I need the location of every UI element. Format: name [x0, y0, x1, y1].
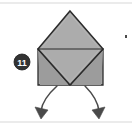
left-arrow-head: [35, 107, 48, 119]
origami-diagram-canvas: 11: [0, 0, 132, 130]
step-badge-label: 11: [17, 58, 27, 68]
scan-speck: [125, 35, 127, 38]
step-number-badge: 11: [14, 54, 30, 70]
right-arrow-head: [92, 107, 105, 119]
left-arrow-shaft: [41, 86, 57, 111]
right-arrow-shaft: [85, 86, 99, 111]
origami-step-figure: 11: [0, 0, 132, 130]
right-flap-swing-arrow: [85, 86, 105, 119]
left-flap-swing-arrow: [35, 86, 57, 119]
